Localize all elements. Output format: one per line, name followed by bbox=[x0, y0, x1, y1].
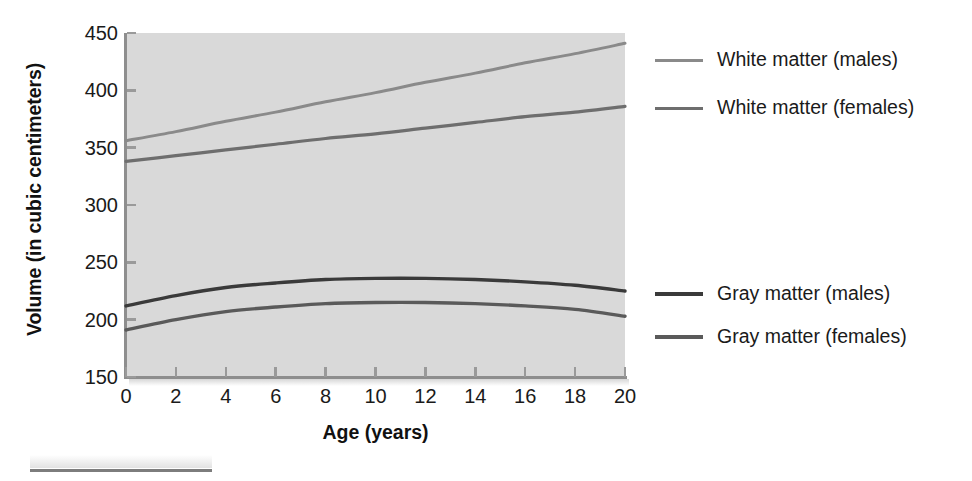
x-axis-title: Age (years) bbox=[126, 421, 625, 444]
legend-line-swatch bbox=[655, 292, 703, 296]
y-axis-title: Volume (in cubic centimeters) bbox=[23, 20, 46, 380]
legend-item[interactable]: White matter (males) bbox=[655, 47, 898, 73]
legend-label: Gray matter (males) bbox=[717, 284, 890, 304]
x-axis-tick-label: 4 bbox=[206, 386, 246, 406]
y-axis-tick-label: 150 bbox=[58, 367, 118, 387]
legend-item[interactable]: Gray matter (females) bbox=[655, 324, 907, 350]
series-line bbox=[126, 43, 625, 140]
x-axis-tick-label: 8 bbox=[306, 386, 346, 406]
legend-label: White matter (females) bbox=[717, 98, 914, 118]
page-smudge bbox=[30, 455, 212, 468]
legend-item[interactable]: White matter (females) bbox=[655, 95, 914, 121]
legend-label: White matter (males) bbox=[717, 50, 898, 70]
y-axis-tick-label: 250 bbox=[58, 252, 118, 272]
x-axis-tick-label: 16 bbox=[505, 386, 545, 406]
y-axis-tick-label: 350 bbox=[58, 138, 118, 158]
legend-item[interactable]: Gray matter (males) bbox=[655, 281, 890, 307]
legend-line-swatch bbox=[655, 335, 703, 339]
y-axis-tick-label: 450 bbox=[58, 23, 118, 43]
series-line bbox=[126, 302, 625, 330]
legend-line-swatch bbox=[655, 59, 703, 62]
footnote-rule bbox=[30, 469, 212, 472]
x-axis-tick-label: 14 bbox=[455, 386, 495, 406]
x-axis-tick-label: 12 bbox=[405, 386, 445, 406]
x-axis-tick-label: 10 bbox=[356, 386, 396, 406]
y-axis-tick-label: 300 bbox=[58, 195, 118, 215]
x-axis-tick-label: 2 bbox=[156, 386, 196, 406]
data-curves bbox=[126, 33, 625, 377]
chart-legend: White matter (males)White matter (female… bbox=[655, 33, 972, 377]
y-axis-tick-label: 200 bbox=[58, 310, 118, 330]
figure-container: Volume (in cubic centimeters) 1502002503… bbox=[0, 0, 972, 481]
x-axis-tick-label: 20 bbox=[605, 386, 645, 406]
x-axis-tick-label: 18 bbox=[555, 386, 595, 406]
legend-label: Gray matter (females) bbox=[717, 327, 907, 347]
x-axis-tick-label: 6 bbox=[256, 386, 296, 406]
legend-line-swatch bbox=[655, 107, 703, 110]
x-axis-tick-label: 0 bbox=[106, 386, 146, 406]
series-line bbox=[126, 106, 625, 161]
y-axis-tick-label: 400 bbox=[58, 80, 118, 100]
